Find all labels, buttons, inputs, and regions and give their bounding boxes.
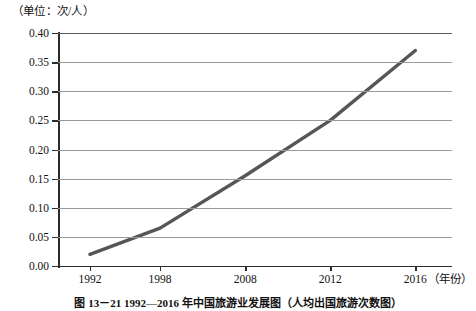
x-axis-title: （年份）: [428, 273, 472, 286]
y-axis-tick-label: 0.15: [29, 173, 49, 185]
gridline: 0.40: [58, 33, 452, 34]
y-axis-tick: [52, 150, 58, 151]
y-axis-tick: [52, 237, 58, 238]
series-polyline: [90, 50, 415, 254]
plot-area: 0.000.050.100.150.200.250.300.350.40: [58, 33, 452, 266]
y-axis-tick-label: 0.30: [29, 85, 49, 97]
x-axis-tick: [245, 266, 246, 271]
chart-figure: （单位：次/人） 0.000.050.100.150.200.250.300.3…: [0, 0, 476, 311]
y-axis-tick-label: 0.25: [29, 114, 49, 126]
figure-caption: 图 13－21 1992—2016 年中国旅游业发展图（人均出国旅游次数图）: [0, 296, 476, 310]
gridline: 0.30: [58, 91, 452, 92]
y-axis-tick: [52, 33, 58, 34]
gridline: 0.20: [58, 150, 452, 151]
y-axis-tick: [52, 120, 58, 121]
y-axis-tick: [52, 91, 58, 92]
x-axis-tick: [160, 266, 161, 271]
x-axis-tick-label: 1992: [78, 273, 101, 286]
y-axis-tick-label: 0.35: [29, 56, 49, 68]
x-axis-tick-label: 2016: [404, 273, 427, 286]
x-axis: 19921998200820122016: [58, 266, 452, 296]
gridline: 0.10: [58, 208, 452, 209]
y-axis-tick-label: 0.00: [29, 260, 49, 272]
gridline: 0.25: [58, 120, 452, 121]
y-axis-tick: [52, 62, 58, 63]
y-axis-tick: [52, 179, 58, 180]
y-axis-tick: [52, 208, 58, 209]
x-axis-tick-label: 2012: [319, 273, 342, 286]
y-axis-tick-label: 0.05: [29, 231, 49, 243]
gridline: 0.35: [58, 62, 452, 63]
x-axis-tick-label: 2008: [234, 273, 257, 286]
y-axis-unit-note: （单位：次/人）: [12, 4, 94, 18]
x-axis-tick-label: 1998: [149, 273, 172, 286]
x-axis-tick: [415, 266, 416, 271]
y-axis-tick-label: 0.40: [29, 27, 49, 39]
gridline: 0.05: [58, 237, 452, 238]
x-axis-tick: [330, 266, 331, 271]
gridline: 0.15: [58, 179, 452, 180]
y-axis-tick-label: 0.20: [29, 144, 49, 156]
x-axis-tick: [90, 266, 91, 271]
y-axis-tick-label: 0.10: [29, 202, 49, 214]
